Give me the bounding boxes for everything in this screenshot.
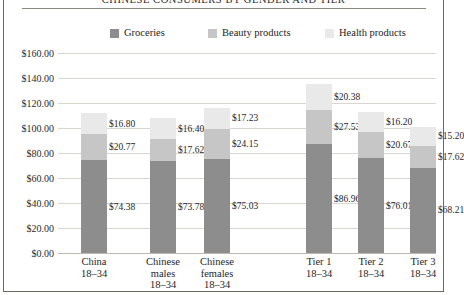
bar-value-label: $20.77 [109,142,135,152]
bar-stack: $68.21$17.62$15.20 [410,53,436,253]
bar-value-label: $76.01 [386,201,412,211]
bar-segment-groceries: $74.38 [81,160,107,253]
bar-stack: $73.78$17.62$16.40 [150,53,176,253]
x-axis: China18–34Chinesemales18–34Chinesefemale… [58,256,436,294]
bar-segment-beauty-products: $20.77 [81,134,107,160]
figure-border-right [443,0,444,292]
y-axis-tick-label: $120.00 [2,98,54,109]
bar-segment-health-products: $17.23 [204,108,230,130]
bar-segment-health-products: $20.38 [306,84,332,109]
x-axis-category-label: China18–34 [58,256,130,279]
y-axis-tick-label: $60.00 [2,173,54,184]
x-axis-label-line: 18–34 [181,279,253,291]
bar-value-label: $75.03 [232,201,258,211]
bar-value-label: $17.62 [438,152,464,162]
bar-value-label: $68.21 [438,205,464,215]
bar-value-label: $20.38 [334,92,360,102]
legend-item-groceries: Groceries [110,27,165,39]
bar-value-label: $24.15 [232,139,258,149]
x-axis-label-line: 18–34 [58,268,130,280]
bar-segment-beauty-products: $20.67 [358,132,384,158]
bar-value-label: $16.80 [109,119,135,129]
bar-value-label: $20.67 [386,140,412,150]
bar-segment-beauty-products: $24.15 [204,129,230,159]
chart-legend: Groceries Beauty products Health product… [100,27,400,41]
bar-segment-beauty-products: $27.53 [306,110,332,144]
bar-segment-groceries: $73.78 [150,161,176,253]
legend-swatch-groceries [110,29,119,38]
x-axis-label-line: Chinese [181,256,253,268]
legend-label-beauty-products: Beauty products [222,27,291,39]
y-axis-tick-label: $40.00 [2,198,54,209]
bar-value-label: $16.20 [386,117,412,127]
bar-value-label: $73.78 [178,202,204,212]
bar-segment-health-products: $16.40 [150,118,176,139]
bar-segment-health-products: $16.80 [81,113,107,134]
plot-area: $74.38$20.77$16.80$73.78$17.62$16.40$75.… [58,53,436,253]
bar-value-label: $16.40 [178,124,204,134]
chart-title: CHINESE CONSUMERS BY GENDER AND TIER [3,0,444,5]
bar-value-label: $17.62 [178,145,204,155]
legend-label-health-products: Health products [339,27,406,39]
legend-label-groceries: Groceries [124,27,165,39]
y-axis-tick-label: $140.00 [2,73,54,84]
bar-value-label: $17.23 [232,113,258,123]
bar-segment-groceries: $68.21 [410,168,436,253]
y-axis-tick-label: $100.00 [2,123,54,134]
bar-segment-groceries: $76.01 [358,158,384,253]
bar-segment-groceries: $75.03 [204,159,230,253]
y-axis-tick-label: $0.00 [2,248,54,259]
title-divider [22,8,426,9]
y-axis-tick-label: $80.00 [2,148,54,159]
x-axis-label-line: Tier 3 [387,256,459,268]
bar-segment-health-products: $15.20 [410,127,436,146]
bar-segment-groceries: $86.96 [306,144,332,253]
legend-item-beauty-products: Beauty products [208,27,291,39]
y-axis-tick-label: $20.00 [2,223,54,234]
bar-value-label: $74.38 [109,202,135,212]
legend-item-health-products: Health products [325,27,406,39]
bar-stack: $75.03$24.15$17.23 [204,53,230,253]
bar-value-label: $27.53 [334,122,360,132]
y-axis-tick-label: $160.00 [2,48,54,59]
x-axis-label-line: 18–34 [387,268,459,280]
bar-stack: $74.38$20.77$16.80 [81,53,107,253]
bar-stack: $86.96$27.53$20.38 [306,53,332,253]
bar-value-label: $15.20 [438,131,464,141]
gridline [58,253,436,254]
bar-segment-health-products: $16.20 [358,112,384,132]
bar-stack: $76.01$20.67$16.20 [358,53,384,253]
legend-swatch-health-products [325,29,334,38]
bar-segment-beauty-products: $17.62 [150,139,176,161]
legend-swatch-beauty-products [208,29,217,38]
y-axis: $0.00$20.00$40.00$60.00$80.00$100.00$120… [0,53,54,253]
x-axis-category-label: Chinesefemales18–34 [181,256,253,291]
x-axis-category-label: Tier 318–34 [387,256,459,279]
x-axis-label-line: China [58,256,130,268]
x-axis-label-line: females [181,268,253,280]
bar-segment-beauty-products: $17.62 [410,146,436,168]
bar-value-label: $86.96 [334,194,360,204]
